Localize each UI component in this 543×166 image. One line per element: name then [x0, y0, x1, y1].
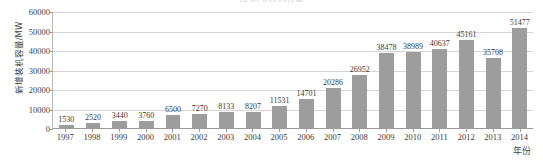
bar[interactable]: 2520: [86, 123, 101, 128]
y-axis-tick-label: 30000: [29, 67, 50, 76]
y-axis-tick-label: 20000: [29, 86, 50, 95]
bar-slot: 40637: [426, 12, 453, 128]
bar[interactable]: 7270: [192, 114, 207, 128]
y-axis-tick-label: 50000: [29, 28, 50, 37]
x-axis-tick-label: 2000: [132, 132, 159, 144]
bar-value-label: 2520: [85, 114, 101, 122]
bar-slot: 3760: [133, 12, 160, 128]
x-axis-tick-label: 2004: [239, 132, 266, 144]
bar-slot: 51477: [506, 12, 533, 128]
bar[interactable]: 38989: [406, 52, 421, 128]
chart-title-clipped: 图 新增装机容量: [0, 0, 543, 7]
bar-slot: 11531: [266, 12, 293, 128]
bar-value-label: 26952: [350, 66, 370, 74]
bar-value-label: 40637: [430, 40, 450, 48]
bar-slot: 8207: [240, 12, 267, 128]
bar[interactable]: 8207: [246, 112, 261, 128]
bar-value-label: 38478: [376, 44, 396, 52]
x-axis-tick-label: 2002: [186, 132, 213, 144]
bar-value-label: 8133: [218, 103, 234, 111]
x-axis-tick-label: 2003: [212, 132, 239, 144]
bar-series: 1530252034403760650072708133820711531147…: [53, 12, 533, 128]
bar-chart: 图 新增装机容量 新增装机容量/MW 010000200003000040000…: [0, 0, 543, 166]
x-axis-tick-label: 2008: [346, 132, 373, 144]
x-axis-tick-labels: 1997199819992000200120022003200420052006…: [52, 132, 533, 144]
x-axis-tick-label: 2001: [159, 132, 186, 144]
bar-value-label: 35708: [483, 49, 503, 57]
x-axis-tick-label: 2012: [453, 132, 480, 144]
x-axis-tick-label: 2011: [426, 132, 453, 144]
bar[interactable]: 3760: [139, 121, 154, 128]
bar[interactable]: 14701: [299, 99, 314, 128]
bar-value-label: 6500: [165, 106, 181, 114]
bar-slot: 20286: [320, 12, 347, 128]
x-axis-tick-label: 1999: [105, 132, 132, 144]
bar-value-label: 1530: [58, 116, 74, 124]
bar-slot: 45161: [453, 12, 480, 128]
bar-value-label: 3440: [112, 112, 128, 120]
bar[interactable]: 35708: [486, 58, 501, 128]
bar-value-label: 45161: [456, 31, 476, 39]
y-axis-tick-label: 60000: [29, 8, 50, 17]
x-axis-tick-label: 1997: [52, 132, 79, 144]
bar-slot: 35708: [480, 12, 507, 128]
bar[interactable]: 8133: [219, 112, 234, 128]
x-axis-tick-label: 2006: [292, 132, 319, 144]
bar-slot: 2520: [80, 12, 107, 128]
bar[interactable]: 6500: [166, 115, 181, 128]
x-axis-tick-label: 2013: [480, 132, 507, 144]
bar-value-label: 20286: [323, 79, 343, 87]
bar-slot: 14701: [293, 12, 320, 128]
y-axis-tick-label: 0: [46, 125, 50, 134]
bar[interactable]: 26952: [352, 75, 367, 128]
bar-value-label: 8207: [245, 103, 261, 111]
x-axis-tick-label: 1998: [79, 132, 106, 144]
bar[interactable]: 45161: [459, 40, 474, 128]
bar-slot: 3440: [106, 12, 133, 128]
x-axis-tick-label: 2009: [373, 132, 400, 144]
bar-slot: 6500: [160, 12, 187, 128]
x-axis-tick-label: 2005: [266, 132, 293, 144]
bar-value-label: 14701: [296, 90, 316, 98]
bar-value-label: 3760: [138, 112, 154, 120]
y-axis-tick-label: 40000: [29, 47, 50, 56]
bar-value-label: 51477: [510, 19, 530, 27]
bar-slot: 38989: [400, 12, 427, 128]
bar-slot: 38478: [373, 12, 400, 128]
plot-area: 1530252034403760650072708133820711531147…: [52, 12, 533, 129]
y-axis-tick-labels: 0100002000030000400005000060000: [14, 12, 50, 129]
x-axis-title: 年份: [513, 146, 531, 157]
bar[interactable]: 20286: [326, 88, 341, 128]
bar[interactable]: 38478: [379, 53, 394, 128]
x-axis-tick-label: 2007: [319, 132, 346, 144]
x-axis-tick-label: 2010: [399, 132, 426, 144]
bar[interactable]: 3440: [112, 121, 127, 128]
bar-slot: 8133: [213, 12, 240, 128]
y-axis-tick-label: 10000: [29, 106, 50, 115]
bar[interactable]: 1530: [59, 125, 74, 128]
bar-slot: 26952: [346, 12, 373, 128]
bar[interactable]: 40637: [432, 49, 447, 128]
bar[interactable]: 11531: [272, 106, 287, 128]
bar-value-label: 38989: [403, 43, 423, 51]
bar-slot: 7270: [186, 12, 213, 128]
x-axis-tick-label: 2014: [506, 132, 533, 144]
bar[interactable]: 51477: [512, 28, 527, 128]
bar-value-label: 7270: [192, 105, 208, 113]
bar-slot: 1530: [53, 12, 80, 128]
bar-value-label: 11531: [270, 97, 290, 105]
